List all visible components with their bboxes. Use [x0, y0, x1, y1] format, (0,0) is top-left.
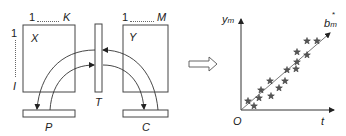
matrix-x-label: X — [31, 33, 38, 44]
trend-line-superscript: * — [332, 11, 335, 19]
trend-line-subscript: m — [330, 20, 337, 29]
matrix-y-label: Y — [129, 32, 136, 43]
star-point — [314, 37, 321, 44]
transform-label: T — [95, 97, 102, 108]
star-point — [293, 65, 300, 72]
x-col-end: K — [63, 12, 70, 23]
hollow-right-arrow-icon — [189, 57, 217, 71]
y-col-start: 1 — [122, 12, 128, 23]
x-col-start: 1 — [29, 12, 35, 23]
x-row-start: 1 — [11, 28, 17, 39]
star-point — [276, 84, 283, 91]
star-point — [304, 37, 311, 44]
diagram-canvas: 1 K 1 I X 1 M Y T P C ym O t bm * — [0, 0, 346, 136]
x-axis-label: t — [321, 116, 324, 127]
block-p — [23, 110, 75, 117]
star-point — [294, 48, 301, 55]
scatter-points — [245, 37, 321, 109]
x-row-dots — [15, 40, 16, 77]
star-point — [256, 94, 263, 101]
star-point — [245, 97, 252, 104]
y-col-end: M — [157, 12, 166, 23]
star-point — [304, 51, 311, 58]
star-point — [282, 77, 289, 84]
transform-block — [95, 24, 102, 92]
y-col-dots — [130, 21, 154, 22]
star-point — [251, 102, 258, 109]
star-point — [258, 86, 265, 93]
trend-line-label: bm — [324, 18, 337, 29]
x-col-dots — [37, 21, 59, 22]
x-row-end: I — [13, 81, 16, 92]
y-axis-subscript: m — [228, 16, 235, 25]
block-c — [123, 110, 168, 117]
star-point — [268, 92, 275, 99]
block-p-label: P — [45, 122, 52, 133]
origin-label: O — [233, 116, 242, 127]
y-axis-label: ym — [222, 14, 234, 25]
block-c-label: C — [142, 122, 150, 133]
